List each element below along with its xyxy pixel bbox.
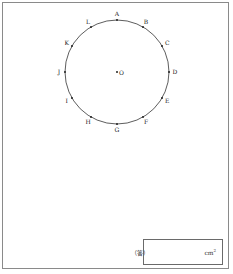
point-a	[116, 19, 118, 21]
point-label-h: H	[85, 118, 90, 125]
point-l	[90, 26, 92, 28]
point-j	[64, 71, 66, 73]
point-label-g: G	[115, 126, 120, 133]
point-g	[116, 123, 118, 125]
point-label-d: D	[173, 68, 178, 75]
point-label-j: J	[57, 68, 61, 76]
point-k	[71, 45, 73, 47]
point-label-b: B	[144, 18, 149, 25]
point-e	[161, 97, 163, 99]
center-label: O	[119, 69, 124, 76]
point-b	[142, 26, 144, 28]
point-label-f: F	[144, 118, 148, 125]
point-label-k: K	[65, 39, 70, 46]
point-label-a: A	[114, 10, 120, 17]
answer-unit: cm2	[204, 248, 216, 256]
point-d	[168, 71, 170, 73]
point-label-e: E	[165, 97, 169, 104]
answer-box[interactable]: cm2	[143, 239, 223, 265]
point-c	[161, 45, 163, 47]
center-point	[116, 71, 118, 73]
point-label-c: C	[165, 39, 170, 46]
point-i	[71, 97, 73, 99]
point-label-l: L	[86, 18, 90, 25]
point-label-i: I	[66, 97, 69, 104]
unit-exponent: 2	[213, 248, 216, 253]
circle-figure: ABCDEFGHIJKL O	[0, 0, 233, 274]
